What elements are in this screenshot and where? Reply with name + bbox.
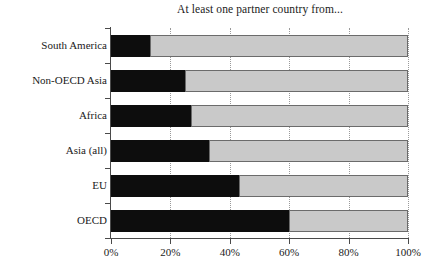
y-axis-tick-label: Asia (all) — [1, 144, 107, 157]
bar-segment-yes — [111, 175, 239, 197]
y-axis-tick-label: Non-OECD Asia — [1, 74, 107, 87]
x-axis-tick — [289, 239, 290, 244]
x-axis-tick-label: 100% — [378, 246, 436, 258]
x-axis-line — [110, 238, 409, 239]
bar-row — [111, 175, 408, 197]
x-axis-tick — [170, 239, 171, 244]
plot-area — [111, 28, 408, 238]
bar-segment-no — [185, 70, 408, 92]
x-axis-tick — [408, 239, 409, 244]
y-axis-tick-label: Africa — [1, 109, 107, 122]
x-axis-tick-label: 40% — [200, 246, 260, 258]
bar-segment-no — [209, 140, 408, 162]
bar-segment-no — [191, 105, 408, 127]
y-axis-tick-label: South America — [1, 39, 107, 52]
chart-container: At least one partner country from... Sou… — [0, 0, 436, 271]
bar-row — [111, 70, 408, 92]
bar-row — [111, 210, 408, 232]
bar-segment-yes — [111, 140, 209, 162]
bar-segment-yes — [111, 210, 289, 232]
y-axis-tick-labels: South AmericaNon-OECD AsiaAfricaAsia (al… — [0, 0, 107, 271]
x-axis-tick — [349, 239, 350, 244]
bar-segment-no — [150, 35, 408, 57]
gridline-80 — [349, 28, 350, 238]
x-axis-tick-labels: 0%20%40%60%80%100% — [0, 246, 436, 266]
bar-row — [111, 105, 408, 127]
gridline-60 — [289, 28, 290, 238]
x-axis-tick-label: 60% — [259, 246, 319, 258]
x-axis-tick-label: 0% — [81, 246, 141, 258]
bar-segment-yes — [111, 105, 191, 127]
x-axis-tick — [111, 239, 112, 244]
bar-segment-yes — [111, 70, 185, 92]
bar-row — [111, 35, 408, 57]
bar-segment-yes — [111, 35, 150, 57]
x-axis-tick-label: 20% — [140, 246, 200, 258]
bar-segment-no — [289, 210, 408, 232]
gridline-100 — [408, 28, 409, 238]
bar-row — [111, 140, 408, 162]
y-axis-tick-label: EU — [1, 179, 107, 192]
x-axis-tick-label: 80% — [319, 246, 379, 258]
bar-segment-no — [239, 175, 408, 197]
chart-title-text: At least one partner country from... — [177, 3, 343, 15]
gridline-20 — [170, 28, 171, 238]
x-axis-tick — [230, 239, 231, 244]
y-axis-tick-label: OECD — [1, 214, 107, 227]
gridline-40 — [230, 28, 231, 238]
